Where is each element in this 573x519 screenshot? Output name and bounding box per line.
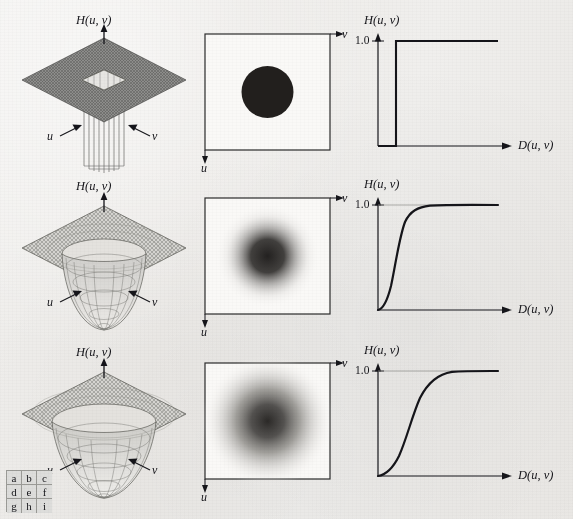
key-cell-h: h	[22, 499, 37, 513]
gaussian-image-svg	[196, 355, 346, 500]
v-axis-label: v	[152, 130, 157, 142]
butterworth-image-svg	[196, 190, 346, 335]
ideal-lowpass-step-curve	[378, 41, 498, 146]
v-axis-label: v	[342, 28, 347, 40]
y-tick-label-one: 1.0	[355, 35, 369, 47]
gaussian-profile-curve	[378, 371, 498, 476]
u-axis-label: u	[47, 296, 53, 308]
butterworth-profile-curve	[378, 205, 498, 310]
h-axis-label: H(u, v)	[76, 14, 111, 27]
panel-gaussian-lowpass-profile: H(u, v) 1.0 D(u, v)	[352, 344, 567, 502]
v-axis-label: v	[152, 464, 157, 476]
u-axis-label: u	[201, 162, 207, 174]
d-axis-label: D(u, v)	[518, 139, 553, 152]
y-tick-label-one: 1.0	[355, 199, 369, 211]
figure-canvas: H(u, v) u v v u	[0, 0, 573, 519]
u-axis-label: u	[201, 491, 207, 503]
v-axis-arrow	[128, 125, 150, 137]
panel-butterworth-lowpass-profile: H(u, v) 1.0 D(u, v)	[352, 178, 567, 333]
key-cell-g: g	[7, 499, 22, 513]
v-axis-label: v	[152, 296, 157, 308]
butterworth-lowpass-blob	[216, 204, 320, 308]
y-axis	[375, 33, 381, 146]
u-axis-label: u	[47, 130, 53, 142]
x-axis	[378, 143, 512, 150]
x-axis	[378, 307, 512, 314]
d-axis-label: D(u, v)	[518, 469, 553, 482]
x-axis	[378, 473, 512, 480]
panel-butterworth-lowpass-image: v u	[196, 190, 346, 335]
h-axis-label: H(u, v)	[76, 180, 111, 193]
ideal-lowpass-disc	[242, 66, 294, 118]
panel-gaussian-lowpass-image: v u	[196, 355, 346, 500]
panel-butterworth-lowpass-perspective: H(u, v) u v	[14, 178, 194, 338]
key-cell-c: c	[37, 471, 52, 485]
key-cell-f: f	[37, 485, 52, 499]
panel-ideal-lowpass-profile: H(u, v) 1.0 D(u, v)	[352, 14, 567, 169]
h-axis-label: H(u, v)	[76, 346, 111, 359]
h-axis-label: H(u, v)	[364, 344, 399, 357]
ideal-lowpass-image-svg	[196, 26, 346, 171]
key-cell-a: a	[7, 471, 22, 485]
ideal-lowpass-perspective-svg	[14, 14, 194, 174]
h-axis-label: H(u, v)	[364, 178, 399, 191]
v-axis-label: v	[342, 192, 347, 204]
panel-ideal-lowpass-image: v u	[196, 26, 346, 171]
panel-key-grid: a b c d e f g h i	[6, 470, 51, 512]
v-axis-label: v	[342, 357, 347, 369]
d-axis-label: D(u, v)	[518, 303, 553, 316]
key-cell-b: b	[22, 471, 37, 485]
key-cell-d: d	[7, 485, 22, 499]
key-cell-i: i	[37, 499, 52, 513]
key-cell-e: e	[22, 485, 37, 499]
panel-ideal-lowpass-perspective: H(u, v) u v	[14, 14, 194, 174]
u-axis-label: u	[201, 326, 207, 338]
y-tick-label-one: 1.0	[355, 365, 369, 377]
funnel-body	[52, 422, 156, 498]
butterworth-perspective-svg	[14, 178, 194, 338]
gaussian-lowpass-blob	[202, 355, 334, 487]
u-axis-arrow	[60, 125, 82, 137]
y-axis	[375, 363, 381, 476]
y-axis	[375, 197, 381, 310]
h-axis-label: H(u, v)	[364, 14, 399, 27]
